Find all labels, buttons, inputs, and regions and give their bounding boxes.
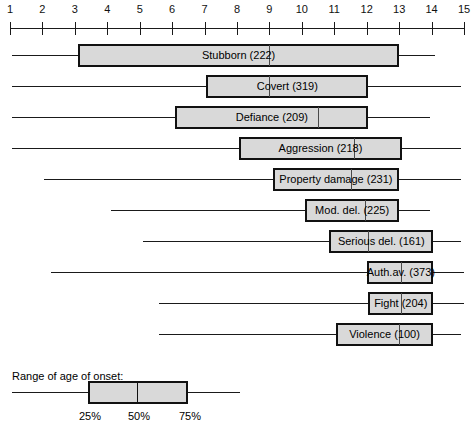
box-plot-row: Auth.av. (373) bbox=[0, 257, 476, 288]
axis-tick-label: 14 bbox=[421, 4, 443, 15]
box-plot-row: Stubborn (222) bbox=[0, 40, 476, 71]
axis-tick bbox=[10, 22, 11, 35]
axis-tick-label: 5 bbox=[129, 4, 151, 15]
legend-label-q3: 75% bbox=[170, 410, 210, 422]
box-plot-row: Serious del. (161) bbox=[0, 226, 476, 257]
axis-tick bbox=[464, 22, 465, 35]
box-plot-row: Aggression (218) bbox=[0, 133, 476, 164]
legend-label-q1: 25% bbox=[70, 410, 110, 422]
row-label: Covert (319) bbox=[206, 75, 368, 98]
row-label: Auth.av. (373) bbox=[367, 261, 433, 284]
axis-tick-label: 10 bbox=[291, 4, 313, 15]
row-label: Property damage (231) bbox=[273, 168, 399, 191]
row-label: Fight (204) bbox=[368, 292, 433, 315]
axis-tick bbox=[367, 22, 368, 35]
axis-tick-label: 7 bbox=[194, 4, 216, 15]
axis-tick bbox=[237, 22, 238, 35]
row-label: Mod. del. (225) bbox=[305, 199, 399, 222]
box-plot-row: Fight (204) bbox=[0, 288, 476, 319]
axis-tick bbox=[140, 22, 141, 35]
legend-label-median: 50% bbox=[119, 410, 159, 422]
axis-tick-label: 3 bbox=[64, 4, 86, 15]
axis-tick-label: 6 bbox=[161, 4, 183, 15]
row-label: Defiance (209) bbox=[175, 106, 368, 129]
axis-tick-label: 1 bbox=[0, 4, 21, 15]
legend-box bbox=[88, 381, 188, 404]
x-axis: 123456789101112131415 bbox=[0, 0, 476, 36]
axis-tick-label: 9 bbox=[258, 4, 280, 15]
axis-tick-label: 4 bbox=[96, 4, 118, 15]
axis-tick bbox=[399, 22, 400, 35]
legend: Range of age of onset: 25% 50% 75% bbox=[0, 370, 476, 435]
box-plot-row: Property damage (231) bbox=[0, 164, 476, 195]
box-plot-row: Covert (319) bbox=[0, 71, 476, 102]
axis-tick-label: 15 bbox=[453, 4, 475, 15]
axis-tick bbox=[432, 22, 433, 35]
axis-tick-label: 11 bbox=[323, 4, 345, 15]
axis-tick-label: 2 bbox=[31, 4, 53, 15]
row-label: Stubborn (222) bbox=[78, 44, 399, 67]
axis-tick bbox=[75, 22, 76, 35]
axis-tick bbox=[334, 22, 335, 35]
axis-tick-label: 12 bbox=[356, 4, 378, 15]
box-plot-row: Defiance (209) bbox=[0, 102, 476, 133]
row-label: Aggression (218) bbox=[239, 137, 403, 160]
row-label: Violence (100) bbox=[336, 323, 433, 346]
axis-tick bbox=[172, 22, 173, 35]
axis-tick bbox=[302, 22, 303, 35]
axis-tick-label: 8 bbox=[226, 4, 248, 15]
axis-tick bbox=[107, 22, 108, 35]
axis-tick bbox=[269, 22, 270, 35]
box-plot-chart: 123456789101112131415 Stubborn (222)Cove… bbox=[0, 0, 476, 435]
box-plot-row: Violence (100) bbox=[0, 319, 476, 350]
axis-tick bbox=[42, 22, 43, 35]
legend-median-line bbox=[137, 382, 138, 403]
axis-tick-label: 13 bbox=[388, 4, 410, 15]
axis-tick bbox=[205, 22, 206, 35]
row-label: Serious del. (161) bbox=[329, 230, 433, 253]
box-plot-row: Mod. del. (225) bbox=[0, 195, 476, 226]
